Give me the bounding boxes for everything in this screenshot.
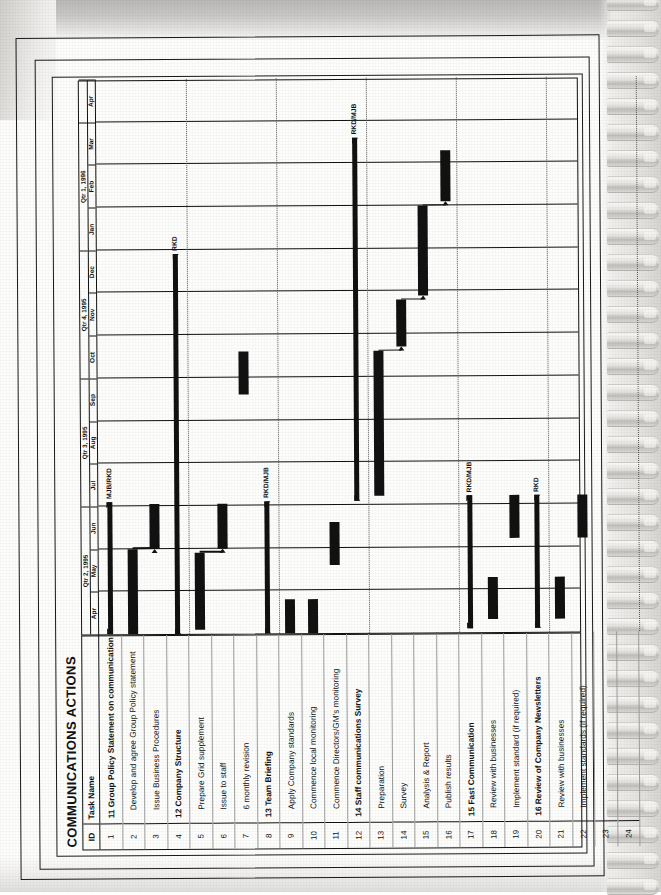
table-row[interactable]: 9Apply Company standards: [279, 633, 303, 848]
column-header-task-name: Task Name: [82, 634, 99, 823]
gantt-task-bar[interactable]: [396, 300, 406, 347]
table-row[interactable]: 19Implement standard (if required): [504, 632, 528, 847]
month-header-cell: Nov: [89, 293, 97, 336]
dependency-link-arrow: [219, 549, 225, 553]
table-row[interactable]: 2016 Review of Company Newsletters: [527, 632, 551, 847]
month-header-cell: Jan: [88, 208, 96, 251]
row-task-name: Issue Business Procedures: [144, 634, 167, 823]
gantt-summary-bar[interactable]: [352, 138, 359, 501]
gantt-task-bar[interactable]: [418, 205, 429, 295]
row-task-name: [617, 631, 640, 820]
row-task-name: Analysis & Report: [414, 632, 437, 821]
gantt-summary-bar[interactable]: [535, 495, 541, 627]
row-id: 11: [325, 822, 347, 848]
grid-line-vertical: [96, 118, 577, 122]
column-header-id: ID: [83, 823, 99, 849]
row-task-name: Review with businesses: [482, 632, 505, 821]
row-id: 24: [618, 820, 640, 846]
grid-line-vertical: [98, 374, 579, 378]
row-id: 16: [438, 821, 460, 847]
task-table: ID Task Name 111 Group Policy Statement …: [81, 632, 582, 850]
table-row[interactable]: 2Develop and agree Group Policy statemen…: [122, 634, 146, 849]
gantt-summary-bar[interactable]: [467, 496, 473, 628]
grid-line-vertical: [97, 204, 578, 208]
table-row[interactable]: 23: [594, 631, 618, 846]
row-task-name: Prepare Grid supplement: [189, 634, 212, 823]
row-id: 17: [460, 821, 482, 847]
table-row[interactable]: 18Review with businesses: [482, 632, 506, 847]
gantt-task-bar[interactable]: [217, 503, 227, 548]
gantt-summary-bar[interactable]: [173, 254, 180, 634]
month-header-cell: Feb: [88, 165, 96, 208]
row-task-name: Review with businesses: [549, 632, 572, 821]
table-row[interactable]: 3Issue Business Procedures: [144, 634, 168, 849]
table-row[interactable]: 813 Team Briefing: [257, 633, 281, 848]
table-row[interactable]: 24: [617, 631, 641, 846]
gantt-task-bar[interactable]: [488, 576, 498, 619]
gantt-task-bar[interactable]: [374, 351, 385, 496]
summary-bar-end-cap: [467, 496, 473, 502]
table-row[interactable]: 76 monthly revision: [234, 633, 258, 848]
table-row[interactable]: 10Commence local monitoring: [302, 633, 326, 848]
row-task-name: Survey: [392, 632, 415, 821]
gantt-task-bar[interactable]: [577, 495, 587, 538]
gantt-task-bar[interactable]: [555, 576, 565, 619]
table-row[interactable]: 14Survey: [392, 632, 416, 847]
row-id: 3: [145, 823, 167, 849]
row-id: 12: [348, 822, 370, 848]
table-row[interactable]: 111 Group Policy Statement on communicat…: [99, 634, 123, 849]
resource-label: RKD/MJB: [466, 462, 473, 493]
gantt-task-bar[interactable]: [308, 599, 318, 633]
row-id: 4: [168, 823, 190, 849]
row-task-name: 15 Fast Communication: [459, 632, 482, 821]
row-id: 13: [370, 822, 392, 848]
quarter-header-cell: Qtr 1, 1996: [79, 122, 87, 250]
row-task-name: Develop and agree Group Policy statement: [122, 634, 145, 823]
row-task-name: Preparation: [369, 633, 392, 822]
table-row[interactable]: 16Publish results: [437, 632, 461, 847]
grid-line-vertical: [98, 502, 579, 506]
timeline-area: Qtr 2, 1995Qtr 3, 1995Qtr 4, 1995Qtr 1, …: [78, 77, 581, 635]
summary-bar-end-cap: [264, 501, 270, 507]
summary-bar-start-cap: [467, 622, 473, 628]
gantt-sheet: COMMUNICATIONS ACTIONS ID Task Name 111 …: [56, 77, 583, 850]
gantt-task-bar[interactable]: [440, 150, 450, 201]
row-task-name: 12 Company Structure: [167, 634, 190, 823]
grid-line-vertical: [98, 417, 579, 421]
table-row[interactable]: 21Review with businesses: [549, 632, 573, 847]
gantt-task-bar[interactable]: [195, 553, 205, 630]
table-row[interactable]: 6Issue to staff: [212, 634, 236, 849]
month-header-cell: Jun: [90, 506, 98, 549]
row-task-name: Implement standards (if required): [572, 631, 595, 820]
gantt-task-bar[interactable]: [127, 549, 138, 634]
gantt-summary-bar[interactable]: [107, 502, 113, 634]
table-row[interactable]: 1715 Fast Communication: [459, 632, 483, 847]
row-task-name: Implement standard (if required): [504, 632, 527, 821]
month-header-cell: May: [90, 549, 98, 592]
gantt-task-bar[interactable]: [330, 522, 340, 565]
table-row[interactable]: 1214 Staff communications Survey: [347, 633, 371, 848]
month-header-cell: Aug: [89, 421, 97, 464]
gantt-summary-bar[interactable]: [265, 501, 271, 633]
table-row[interactable]: 15Analysis & Report: [414, 632, 438, 847]
row-id: 1: [100, 823, 122, 849]
gantt-task-bar[interactable]: [285, 599, 295, 633]
table-row[interactable]: 412 Company Structure: [167, 634, 191, 849]
table-row[interactable]: 11Commence Directors/GM's monitoring: [324, 633, 348, 848]
table-row[interactable]: 13Preparation: [369, 633, 393, 848]
quarter-header-cell: Qtr 2, 1995: [81, 506, 89, 634]
row-task-name: Apply Company standards: [279, 633, 302, 822]
gantt-task-bar[interactable]: [150, 504, 160, 549]
quarter-header-cell: [79, 80, 87, 123]
grid-line-vertical: [97, 332, 578, 336]
gantt-task-bar[interactable]: [510, 495, 520, 538]
table-row[interactable]: 22Implement standards (if required): [572, 631, 596, 846]
resource-label: RKD/MJB: [263, 467, 270, 498]
gantt-sheet-rotated-container: COMMUNICATIONS ACTIONS ID Task Name 111 …: [56, 77, 583, 850]
gantt-task-bar[interactable]: [239, 352, 249, 395]
grid-line-horizontal: [276, 78, 280, 633]
grid-line-horizontal: [186, 79, 190, 634]
row-task-name: Issue to staff: [212, 634, 235, 823]
table-row[interactable]: 5Prepare Grid supplement: [189, 634, 213, 849]
row-id: 18: [483, 821, 505, 847]
